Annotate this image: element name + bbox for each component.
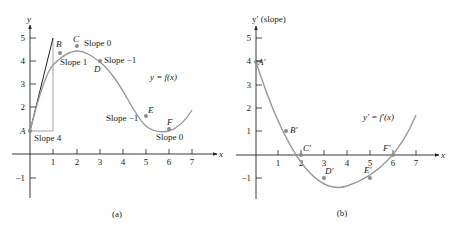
svg-text:D: D — [93, 64, 101, 74]
svg-text:6: 6 — [167, 157, 172, 167]
svg-text:4: 4 — [345, 158, 350, 168]
svg-text:2: 2 — [247, 103, 252, 113]
svg-text:5: 5 — [144, 157, 149, 167]
svg-text:7: 7 — [190, 157, 195, 167]
point-c — [75, 44, 79, 48]
svg-text:A′: A′ — [257, 57, 266, 67]
point-a — [28, 129, 32, 133]
x-tick-labels: 1 2 3 4 5 6 7 — [51, 157, 195, 167]
panel-b: x y′ (slope) 1 2 3 4 5 6 7 5 4 3 2 1 — [236, 14, 445, 218]
svg-text:Slope 0: Slope 0 — [156, 132, 184, 142]
slope-labels: Slope 4 Slope 1 Slope 0 Slope −1 Slope −… — [34, 38, 184, 143]
svg-text:Slope 0: Slope 0 — [84, 38, 112, 48]
svg-text:5: 5 — [247, 33, 252, 43]
y-axis-label: y′ (slope) — [252, 14, 286, 24]
curve-label-f: y = f(x) — [149, 72, 177, 82]
svg-text:3: 3 — [247, 80, 252, 90]
point-labels: A B C D E F — [19, 34, 173, 136]
svg-text:C′: C′ — [303, 143, 312, 153]
caption-a: (a) — [112, 209, 122, 219]
svg-text:Slope 1: Slope 1 — [60, 57, 87, 67]
point-e-prime — [368, 176, 372, 180]
y-tick-labels: 5 4 3 2 1 −1 — [241, 33, 251, 183]
point-f — [167, 127, 171, 131]
x-axis-label: x — [218, 149, 223, 159]
derivative-figure: x y 1 2 3 4 5 6 7 5 4 3 2 −1 — [0, 0, 454, 230]
y-axis-label: y — [26, 14, 31, 24]
svg-text:2: 2 — [21, 102, 26, 112]
svg-text:4: 4 — [21, 56, 26, 66]
curve-points — [28, 44, 171, 133]
svg-text:F: F — [166, 117, 173, 127]
svg-text:Slope −1: Slope −1 — [106, 113, 138, 123]
svg-text:A: A — [19, 126, 26, 136]
svg-text:1: 1 — [247, 126, 252, 136]
svg-text:E: E — [147, 105, 154, 115]
svg-text:1: 1 — [276, 158, 281, 168]
svg-text:B′: B′ — [290, 125, 298, 135]
point-d — [98, 59, 102, 63]
svg-text:4: 4 — [121, 157, 126, 167]
svg-text:1: 1 — [51, 157, 56, 167]
point-b — [58, 51, 62, 55]
x-tick-labels: 1 2 3 4 5 6 7 — [276, 158, 419, 168]
svg-text:E′: E′ — [363, 165, 372, 175]
point-b-prime — [284, 129, 288, 133]
svg-text:5: 5 — [21, 33, 26, 43]
svg-text:B: B — [56, 39, 62, 49]
svg-text:7: 7 — [414, 158, 419, 168]
x-ticks — [53, 149, 192, 154]
svg-text:3: 3 — [98, 157, 103, 167]
point-d-prime — [322, 176, 326, 180]
svg-text:Slope 4: Slope 4 — [34, 133, 62, 143]
curve-f-prime — [256, 62, 416, 187]
point-c-prime — [299, 153, 303, 157]
svg-text:−1: −1 — [15, 173, 25, 183]
y-ticks — [30, 38, 36, 178]
svg-text:2: 2 — [75, 157, 80, 167]
curve-label-f-prime: y′ = f′(x) — [362, 112, 394, 122]
caption-b: (b) — [337, 208, 348, 218]
svg-text:6: 6 — [391, 158, 396, 168]
svg-text:3: 3 — [21, 79, 26, 89]
svg-text:C: C — [73, 34, 80, 44]
panel-a: x y 1 2 3 4 5 6 7 5 4 3 2 −1 — [12, 14, 223, 219]
svg-text:F′: F′ — [382, 143, 391, 153]
svg-text:D′: D′ — [324, 166, 334, 176]
x-axis-label: x — [440, 150, 445, 160]
svg-text:−1: −1 — [241, 173, 251, 183]
svg-text:4: 4 — [247, 56, 252, 66]
point-f-prime — [391, 153, 395, 157]
y-tick-labels: 5 4 3 2 −1 — [15, 33, 25, 183]
svg-text:Slope −1: Slope −1 — [104, 55, 136, 65]
